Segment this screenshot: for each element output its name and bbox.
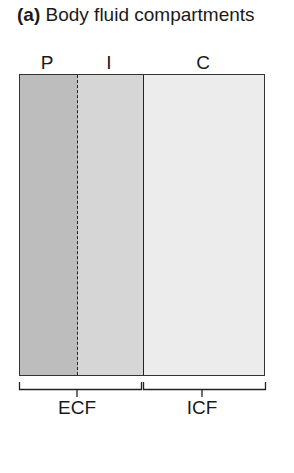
group-brackets [0,380,294,400]
compartment-box [19,74,265,376]
plasma-segment [20,75,78,375]
label-ecf: ECF [47,397,107,419]
label-cellular: C [188,52,218,74]
label-icf: ICF [172,397,232,419]
panel-letter: (a) [17,4,40,25]
intracellular-segment [144,75,264,375]
label-plasma: P [32,52,62,74]
title-text: Body fluid compartments [46,4,255,25]
label-interstitial: I [94,52,124,74]
interstitial-segment [78,75,144,375]
figure-title: (a) Body fluid compartments [17,4,255,26]
